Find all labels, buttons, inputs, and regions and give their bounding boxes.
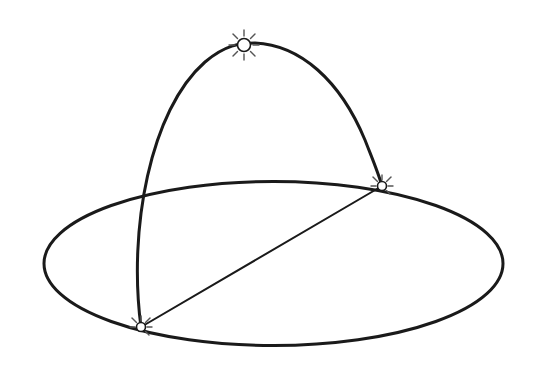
sun-path-diagram [0,0,535,370]
horizon-ellipse [44,182,503,346]
sun-icon-noon [229,30,259,60]
horizon-chord [141,186,382,327]
